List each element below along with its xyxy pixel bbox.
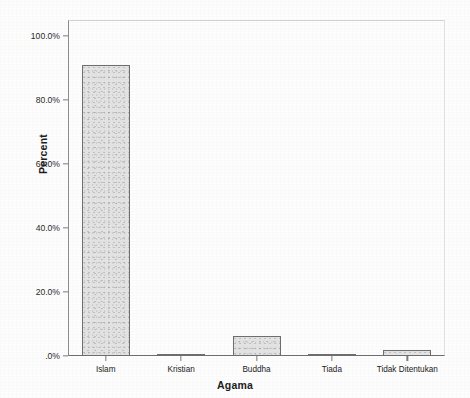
x-tick-mark xyxy=(407,356,408,361)
bar-buddha xyxy=(233,336,281,356)
x-tick-mark xyxy=(180,356,181,361)
x-tick-mark xyxy=(331,356,332,361)
y-tick-label: 40.0% xyxy=(12,223,60,233)
x-axis-title: Agama xyxy=(0,379,470,391)
x-tick-label: Buddha xyxy=(242,365,270,374)
bar-chart: Percent .0%20.0%40.0%60.0%80.0%100.0% Is… xyxy=(0,0,470,398)
y-tick-label: .0% xyxy=(12,351,60,361)
x-tick-label: Kristian xyxy=(167,365,194,374)
bar-islam xyxy=(82,65,130,356)
x-tick-label: Tidak Ditentukan xyxy=(377,365,438,374)
y-tick-label: 80.0% xyxy=(12,95,60,105)
x-tick-label: Islam xyxy=(96,365,116,374)
x-tick-label: Tiada xyxy=(322,365,342,374)
x-tick-mark xyxy=(256,356,257,361)
y-tick-label: 60.0% xyxy=(12,159,60,169)
y-tick-label: 20.0% xyxy=(12,287,60,297)
y-tick-label: 100.0% xyxy=(12,31,60,41)
y-axis-title: Percent xyxy=(37,119,49,189)
x-tick-mark xyxy=(105,356,106,361)
